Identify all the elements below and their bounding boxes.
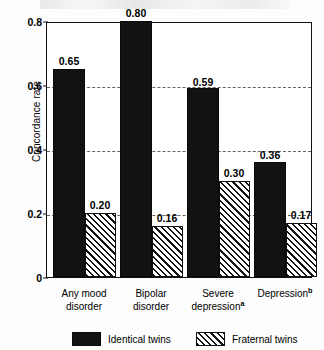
plot-area: 0.65 0.20 0.80 0.16 0.59 0.30 0.36 0.17 [46, 22, 312, 278]
bar-identical-severe-depression[interactable] [187, 88, 219, 277]
x-axis-label-severe-depression: Severe depressiona [192, 288, 245, 313]
value-label-identical-any-mood-disorder: 0.65 [59, 55, 79, 67]
y-axis-ticks: 0 0.2 0.4 0.6 0.8 [0, 0, 42, 350]
x-axis-footnote-marker-b: b [308, 286, 312, 295]
x-axis-label-any-mood-disorder: Any mood disorder [61, 288, 106, 313]
value-label-identical-bipolar-disorder: 0.80 [126, 7, 146, 19]
chart-legend: Identical twins Fraternal twins [0, 329, 324, 349]
x-axis-label-bipolar-disorder-line2: disorder [133, 301, 169, 312]
y-tick-label-0-6: 0.6 [8, 80, 42, 92]
x-axis-label-bipolar-disorder: Bipolar disorder [133, 288, 169, 313]
x-axis-label-severe-depression-line2: depression [192, 301, 241, 312]
x-axis-label-depression: Depressionb [258, 288, 313, 301]
x-axis-label-any-mood-disorder-line1: Any mood [61, 288, 106, 299]
value-label-identical-depression: 0.36 [260, 149, 280, 161]
bar-identical-bipolar-disorder[interactable] [120, 21, 152, 277]
bar-fraternal-depression[interactable] [286, 223, 317, 277]
y-tick-label-0-4: 0.4 [8, 144, 42, 156]
legend-swatch-identical-twins [72, 332, 101, 346]
x-axis-label-depression-line1: Depression [258, 288, 309, 299]
legend-swatch-fraternal-twins [196, 332, 225, 346]
bar-fraternal-bipolar-disorder[interactable] [152, 226, 183, 277]
y-tick-label-0-2: 0.2 [8, 208, 42, 220]
bar-chart-figure: Concordance rate 0 0.2 0.4 0.6 0.8 [0, 0, 324, 350]
bar-identical-depression[interactable] [254, 162, 286, 277]
value-label-fraternal-any-mood-disorder: 0.20 [90, 199, 110, 211]
x-axis-label-bipolar-disorder-line1: Bipolar [135, 288, 166, 299]
scan-artifact [40, 0, 290, 9]
bar-fraternal-severe-depression[interactable] [219, 181, 250, 277]
x-axis-label-any-mood-disorder-line2: disorder [66, 301, 102, 312]
legend-label-identical-twins: Identical twins [108, 334, 171, 345]
x-axis-label-severe-depression-line1: Severe [202, 288, 234, 299]
y-tick-label-0: 0 [8, 272, 42, 284]
value-label-identical-severe-depression: 0.59 [193, 76, 213, 88]
legend-item-fraternal-twins[interactable]: Fraternal twins [196, 331, 298, 347]
y-tick-label-0-8: 0.8 [8, 16, 42, 28]
value-label-fraternal-depression: 0.17 [291, 209, 311, 221]
legend-item-identical-twins[interactable]: Identical twins [72, 331, 171, 347]
value-label-fraternal-severe-depression: 0.30 [224, 167, 244, 179]
legend-label-fraternal-twins: Fraternal twins [232, 334, 298, 345]
x-axis-footnote-marker-a: a [240, 298, 244, 307]
bar-identical-any-mood-disorder[interactable] [53, 69, 85, 277]
value-label-fraternal-bipolar-disorder: 0.16 [157, 212, 177, 224]
bar-fraternal-any-mood-disorder[interactable] [85, 213, 116, 277]
